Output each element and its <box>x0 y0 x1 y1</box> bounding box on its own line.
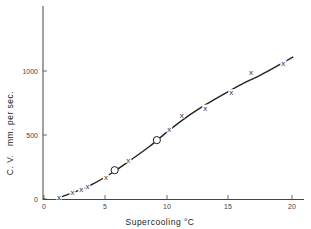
data-point-x-marker: x <box>104 173 108 182</box>
chart: 0 500 1000 C. V. mm. per sec. 0 5 10 15 … <box>0 0 311 229</box>
y-axis: 0 500 1000 C. V. mm. per sec. <box>5 6 47 203</box>
y-axis-title: C. V. mm. per sec. <box>5 91 15 175</box>
data-point-x-marker: x <box>203 104 207 113</box>
x-tick-0: 0 <box>42 203 46 210</box>
data-point-circle-marker <box>111 167 118 174</box>
data-point-x-marker: x <box>180 111 184 120</box>
data-point-x-marker: x <box>79 185 83 194</box>
data-point-x-marker: x <box>229 88 233 97</box>
x-tick-20: 20 <box>288 203 296 210</box>
data-point-x-marker: x <box>167 125 171 134</box>
x-tick-15: 15 <box>224 203 232 210</box>
data-point-x-marker: x <box>249 68 253 77</box>
data-point-x-marker: x <box>85 182 89 191</box>
data-point-x-marker: x <box>126 156 130 165</box>
y-tick-0: 0 <box>34 196 38 203</box>
data-point-x-marker: x <box>57 193 61 202</box>
plot-area: xxxxxxxxxxxx <box>56 57 293 202</box>
data-point-circle-marker <box>153 137 160 144</box>
x-tick-10: 10 <box>163 203 171 210</box>
y-tick-1000: 1000 <box>22 68 38 75</box>
fitted-curve <box>59 57 293 198</box>
x-axis-title: Supercooling °C <box>125 217 194 227</box>
data-point-x-marker: x <box>71 188 75 197</box>
data-point-x-marker: x <box>281 59 285 68</box>
x-tick-5: 5 <box>103 203 107 210</box>
y-tick-500: 500 <box>26 132 38 139</box>
x-axis: 0 5 10 15 20 Supercooling °C <box>42 195 304 227</box>
